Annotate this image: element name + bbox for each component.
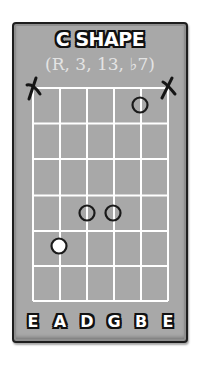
string-label-d: D (77, 311, 97, 333)
string-label-g: G (104, 311, 124, 333)
string-label-b: B (131, 311, 151, 333)
fret-lines (33, 88, 168, 301)
string-label-a: A (50, 311, 70, 333)
string-label-e-high: E (158, 311, 178, 333)
root-marker-a-string (52, 239, 67, 254)
string-label-e-low: E (23, 311, 43, 333)
